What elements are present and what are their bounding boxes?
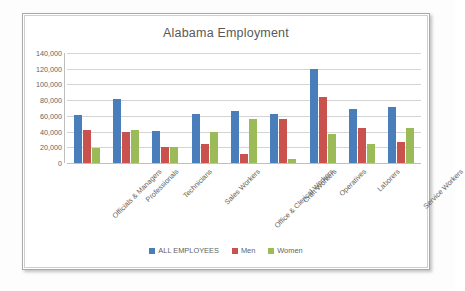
- bar: [388, 107, 396, 163]
- bar-group: [185, 53, 224, 163]
- bar-group: [106, 53, 145, 163]
- y-axis: 020,00040,00060,00080,000100,000120,0001…: [23, 53, 65, 163]
- x-axis-labels: Officials & ManagersProfessionalsTechnic…: [67, 165, 421, 255]
- y-axis-tick-label: 0: [58, 159, 62, 168]
- chart-title: Alabama Employment: [23, 26, 429, 40]
- bar: [249, 119, 257, 163]
- legend-label: ALL EMPLOYEES: [158, 246, 219, 255]
- bar: [74, 115, 82, 163]
- bar-group: [303, 53, 342, 163]
- legend-swatch: [268, 248, 274, 254]
- bar: [192, 114, 200, 164]
- bar: [161, 147, 169, 163]
- bar: [319, 97, 327, 163]
- bar: [367, 144, 375, 163]
- bar: [231, 111, 239, 163]
- legend-swatch: [232, 248, 238, 254]
- x-axis-category-label: Technicians: [181, 167, 214, 200]
- x-axis-category-label: Service Workers: [421, 167, 465, 211]
- bars-layer: [67, 53, 421, 163]
- legend-swatch: [149, 248, 155, 254]
- bar: [349, 109, 357, 163]
- x-axis-category-label: Craft Workers: [301, 167, 339, 205]
- bar: [113, 99, 121, 163]
- bar: [131, 130, 139, 163]
- x-axis-category-label: Operatives: [338, 167, 369, 198]
- bar: [92, 148, 100, 163]
- y-axis-tick-label: 140,000: [36, 49, 62, 58]
- bar: [201, 144, 209, 163]
- bar: [240, 154, 248, 163]
- bar-group: [382, 53, 421, 163]
- chart-legend: ALL EMPLOYEESMenWomen: [23, 246, 429, 255]
- bar-group: [264, 53, 303, 163]
- bar: [152, 131, 160, 163]
- chart-inner: Alabama Employment 020,00040,00060,00080…: [23, 14, 429, 269]
- bar: [122, 132, 130, 163]
- bar-group: [224, 53, 263, 163]
- y-axis-tick-label: 20,000: [40, 143, 62, 152]
- bar: [279, 119, 287, 163]
- legend-item[interactable]: ALL EMPLOYEES: [149, 246, 219, 255]
- bar-group: [342, 53, 381, 163]
- plot-area: [67, 53, 421, 163]
- x-axis-category-label: Sales Workers: [223, 167, 262, 206]
- gridline: [67, 163, 421, 164]
- bar-group: [146, 53, 185, 163]
- legend-item[interactable]: Men: [232, 246, 255, 255]
- bar: [358, 128, 366, 163]
- y-axis-tick-label: 100,000: [36, 80, 62, 89]
- y-axis-tick-label: 80,000: [40, 96, 62, 105]
- y-axis-tick-label: 60,000: [40, 111, 62, 120]
- legend-label: Men: [241, 246, 255, 255]
- legend-item[interactable]: Women: [268, 246, 302, 255]
- bar: [270, 114, 278, 163]
- bar: [406, 128, 414, 163]
- bar: [170, 147, 178, 163]
- x-axis-category-label: Laborers: [375, 167, 401, 193]
- bar: [83, 130, 91, 163]
- y-axis-tick-label: 40,000: [40, 127, 62, 136]
- y-axis-tick-label: 120,000: [36, 64, 62, 73]
- bar: [288, 159, 296, 163]
- chart-frame: Alabama Employment 020,00040,00060,00080…: [22, 13, 430, 270]
- bar: [397, 142, 405, 163]
- bar: [310, 69, 318, 163]
- bar-group: [67, 53, 106, 163]
- y-axis-line: [64, 53, 65, 163]
- bar: [328, 134, 336, 163]
- bar: [210, 132, 218, 163]
- legend-label: Women: [277, 246, 302, 255]
